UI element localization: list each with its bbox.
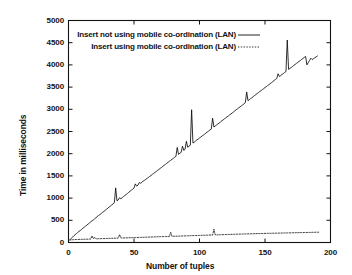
y-tick-label: 3500 <box>26 82 64 91</box>
y-tick-label: 500 <box>26 215 64 224</box>
x-tick-label: 200 <box>317 248 345 257</box>
x-tick-label: 50 <box>120 248 148 257</box>
series-line-0 <box>70 40 318 240</box>
y-tick-label: 0 <box>26 238 64 247</box>
y-tick-label: 5000 <box>26 16 64 25</box>
x-axis-title: Number of tuples <box>146 261 214 271</box>
y-tick-label: 1500 <box>26 171 64 180</box>
y-tick-label: 1000 <box>26 193 64 202</box>
plot-frame <box>69 21 331 243</box>
legend-label-0: Insert not using mobile co-ordination (L… <box>70 30 236 39</box>
x-tick-label: 0 <box>55 248 83 257</box>
x-tick-label: 100 <box>186 248 214 257</box>
y-tick-label: 4000 <box>26 60 64 69</box>
y-tick-label: 3000 <box>26 104 64 113</box>
series-line-1 <box>70 229 320 240</box>
y-tick-label: 4500 <box>26 38 64 47</box>
y-tick-label: 2000 <box>26 149 64 158</box>
y-tick-label: 2500 <box>26 127 64 136</box>
legend-label-1: Insert using mobile co-ordination (LAN) <box>70 42 236 51</box>
x-tick-label: 150 <box>251 248 279 257</box>
